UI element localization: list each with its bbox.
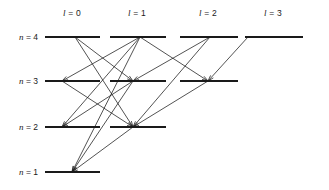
column-equals-l2: = <box>204 8 209 18</box>
row-symbol-n1: n <box>19 167 24 177</box>
row-equals-n1: = <box>26 167 31 177</box>
transition-line <box>75 37 133 127</box>
transition-arrowhead <box>202 76 208 81</box>
column-value-l2: 2 <box>212 8 217 18</box>
column-header-l3: l = 3 <box>264 8 282 18</box>
column-equals-l1: = <box>133 8 138 18</box>
transition-line <box>62 37 140 127</box>
row-label-n3: n = 3 <box>4 76 38 86</box>
transition-line <box>62 37 140 81</box>
column-value-l0: 0 <box>76 8 81 18</box>
column-value-l1: 1 <box>141 8 146 18</box>
transition-line <box>133 37 210 127</box>
row-value-n2: 2 <box>33 122 38 132</box>
row-value-n1: 1 <box>33 167 38 177</box>
column-symbol-l0: l <box>63 8 66 18</box>
transition-line <box>208 37 248 81</box>
row-value-n4: 4 <box>33 32 38 42</box>
column-symbol-l1: l <box>128 8 131 18</box>
row-equals-n2: = <box>26 122 31 132</box>
row-symbol-n4: n <box>19 32 24 42</box>
column-symbol-l3: l <box>264 8 267 18</box>
column-header-l0: l = 0 <box>63 8 81 18</box>
row-equals-n4: = <box>26 32 31 42</box>
row-label-n1: n = 1 <box>4 167 38 177</box>
column-equals-l3: = <box>269 8 274 18</box>
row-label-n2: n = 2 <box>4 122 38 132</box>
arrow-heads-group <box>62 75 213 172</box>
transition-line <box>133 81 208 127</box>
transition-arrowhead <box>133 76 139 81</box>
column-equals-l0: = <box>68 8 73 18</box>
row-equals-n3: = <box>26 76 31 86</box>
column-value-l3: 3 <box>277 8 282 18</box>
transition-line <box>75 37 133 81</box>
diagram-canvas <box>0 0 329 190</box>
column-header-l2: l = 2 <box>199 8 217 18</box>
transition-line <box>72 37 140 172</box>
column-header-l1: l = 1 <box>128 8 146 18</box>
transition-line <box>72 127 133 172</box>
row-value-n3: 3 <box>33 76 38 86</box>
transition-lines-group <box>62 37 248 172</box>
energy-level-diagram: l = 0 l = 1 l = 2 l = 3 n = 4 n = 3 n = … <box>0 0 329 190</box>
row-label-n4: n = 4 <box>4 32 38 42</box>
row-symbol-n2: n <box>19 122 24 132</box>
column-symbol-l2: l <box>199 8 202 18</box>
transition-arrowhead <box>62 76 68 81</box>
row-symbol-n3: n <box>19 76 24 86</box>
